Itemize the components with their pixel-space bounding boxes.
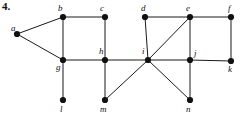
graph-node-label: g [56,63,61,72]
graph-node [102,57,108,63]
graph-edge [148,60,190,100]
graph-node [60,97,66,103]
graph-edge [145,17,148,60]
graph-node-label: d [141,4,146,13]
graph-figure: 4. abcdefghijklmn [0,0,240,115]
graph-node-label: a [11,24,16,33]
graph-node [187,57,193,63]
graph-node [102,14,108,20]
graph-node-label: e [186,4,190,13]
graph-canvas [0,0,240,115]
graph-node-label: f [228,4,231,13]
graph-node-label: j [194,49,197,58]
graph-edge [148,17,190,60]
graph-node-label: i [142,47,145,56]
graph-node [60,14,66,20]
graph-node [145,57,151,63]
graph-node-label: b [58,4,63,13]
graph-node [102,97,108,103]
graph-node [187,14,193,20]
edge-layer [17,17,231,100]
graph-edge [17,34,63,60]
graph-node-label: m [100,105,107,114]
graph-edge [17,17,63,34]
graph-node-label: h [99,47,104,56]
graph-node [187,97,193,103]
graph-node-label: l [60,105,63,114]
graph-node-label: k [228,65,232,74]
graph-node-label: n [186,105,191,114]
node-layer [14,14,234,103]
graph-node [142,14,148,20]
graph-edge [105,60,148,100]
graph-edge [190,60,231,61]
graph-node [228,14,234,20]
graph-node-label: c [100,4,104,13]
